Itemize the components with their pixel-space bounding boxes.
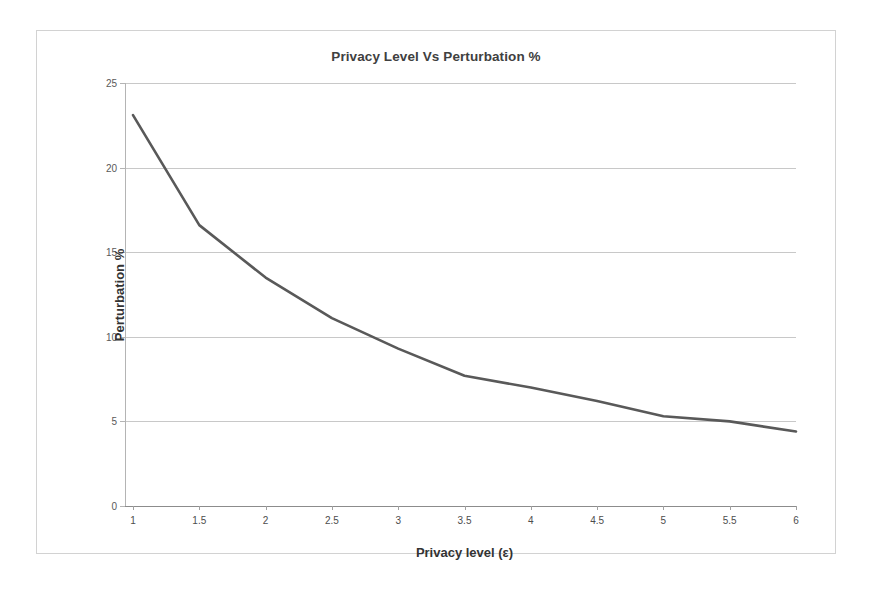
y-axis-tick-label: 20 bbox=[77, 162, 117, 173]
y-axis-tick bbox=[120, 83, 125, 84]
x-axis-tick bbox=[398, 506, 399, 510]
plot-area: 0510152025 11.522.533.544.555.56 Perturb… bbox=[133, 83, 796, 506]
x-axis-tick-label: 5 bbox=[643, 515, 683, 526]
chart-title: Privacy Level Vs Perturbation % bbox=[37, 49, 835, 64]
x-axis-tick bbox=[796, 506, 797, 510]
x-axis-tick bbox=[730, 506, 731, 510]
x-axis-tick-label: 4 bbox=[511, 515, 551, 526]
x-axis-tick bbox=[465, 506, 466, 510]
x-axis-tick-label: 5.5 bbox=[710, 515, 750, 526]
x-axis-tick bbox=[531, 506, 532, 510]
y-axis-tick bbox=[120, 421, 125, 422]
x-axis-line bbox=[125, 506, 796, 507]
x-axis-tick bbox=[266, 506, 267, 510]
y-axis-tick-label: 0 bbox=[77, 501, 117, 512]
y-axis-tick bbox=[120, 506, 125, 507]
x-axis-tick bbox=[332, 506, 333, 510]
y-axis-tick-labels: 0510152025 bbox=[71, 83, 117, 506]
y-axis-tick-label: 25 bbox=[77, 78, 117, 89]
x-axis-tick-label: 6 bbox=[776, 515, 816, 526]
x-axis-tick-label: 2.5 bbox=[312, 515, 352, 526]
x-axis-tick bbox=[133, 506, 134, 510]
x-axis-tick-label: 2 bbox=[246, 515, 286, 526]
chart-page: Privacy Level Vs Perturbation % 05101520… bbox=[0, 0, 872, 610]
x-axis-title: Privacy level (ε) bbox=[133, 545, 796, 560]
x-axis-tick-label: 3 bbox=[378, 515, 418, 526]
x-axis-tick-label: 1 bbox=[113, 515, 153, 526]
y-axis-tick bbox=[120, 168, 125, 169]
x-axis-tick-label: 1.5 bbox=[179, 515, 219, 526]
x-axis-tick bbox=[199, 506, 200, 510]
x-axis-tick bbox=[597, 506, 598, 510]
chart-frame: Privacy Level Vs Perturbation % 05101520… bbox=[36, 30, 836, 554]
x-axis-tick-label: 3.5 bbox=[445, 515, 485, 526]
x-axis-tick bbox=[663, 506, 664, 510]
x-axis-tick-label: 4.5 bbox=[577, 515, 617, 526]
series-line-perturbation bbox=[133, 83, 796, 506]
y-axis-tick-label: 5 bbox=[77, 416, 117, 427]
y-axis-title: Perturbation % bbox=[112, 249, 127, 341]
